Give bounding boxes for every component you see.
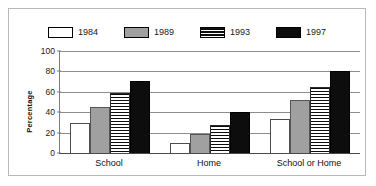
legend-swatch-1993-icon bbox=[200, 27, 225, 38]
legend-item-1997[interactable]: 1997 bbox=[276, 27, 326, 38]
bar-1993-home[interactable] bbox=[210, 125, 230, 153]
bar-1984-school-or-home[interactable] bbox=[270, 119, 290, 153]
plot-area bbox=[59, 51, 360, 154]
legend-label-1993: 1993 bbox=[230, 28, 250, 37]
legend-swatch-1984-icon bbox=[48, 27, 73, 38]
plot-area-wrapper: 020406080100 SchoolHomeSchool or Home bbox=[59, 51, 359, 167]
bar-groups bbox=[60, 51, 360, 153]
bar-1989-home[interactable] bbox=[190, 134, 210, 153]
y-tick-label: 60 bbox=[46, 88, 55, 97]
bar-1997-school-or-home[interactable] bbox=[330, 71, 350, 153]
bar-1984-school[interactable] bbox=[70, 123, 90, 153]
y-axis-ticks: 020406080100 bbox=[33, 51, 57, 153]
y-tick-label: 20 bbox=[46, 128, 55, 137]
bar-1989-school-or-home[interactable] bbox=[290, 100, 310, 153]
bar-1993-school[interactable] bbox=[110, 93, 130, 153]
legend-swatch-1989-icon bbox=[124, 27, 149, 38]
bar-1984-home[interactable] bbox=[170, 143, 190, 153]
y-tick-label: 80 bbox=[46, 67, 55, 76]
bar-group bbox=[160, 51, 260, 153]
legend-label-1997: 1997 bbox=[306, 28, 326, 37]
bar-group bbox=[260, 51, 360, 153]
legend-item-1993[interactable]: 1993 bbox=[200, 27, 250, 38]
x-tick-label: Home bbox=[159, 155, 259, 171]
y-tick-label: 100 bbox=[41, 47, 55, 56]
bar-1989-school[interactable] bbox=[90, 107, 110, 153]
chart-legend: 1984 1989 1993 1997 bbox=[9, 21, 365, 43]
legend-item-1984[interactable]: 1984 bbox=[48, 27, 98, 38]
legend-item-1989[interactable]: 1989 bbox=[124, 27, 174, 38]
bar-1993-school-or-home[interactable] bbox=[310, 87, 330, 153]
legend-label-1989: 1989 bbox=[154, 28, 174, 37]
bar-1997-home[interactable] bbox=[230, 112, 250, 153]
bar-group bbox=[60, 51, 160, 153]
y-tick-label: 0 bbox=[50, 149, 55, 158]
y-tick-label: 40 bbox=[46, 108, 55, 117]
chart-figure: 1984 1989 1993 1997 Percentage 020406080… bbox=[8, 8, 366, 176]
x-tick-label: School or Home bbox=[259, 155, 359, 171]
x-tick-label: School bbox=[59, 155, 159, 171]
legend-label-1984: 1984 bbox=[78, 28, 98, 37]
bar-1997-school[interactable] bbox=[130, 81, 150, 153]
x-axis-labels: SchoolHomeSchool or Home bbox=[59, 155, 359, 171]
legend-swatch-1997-icon bbox=[276, 27, 301, 38]
